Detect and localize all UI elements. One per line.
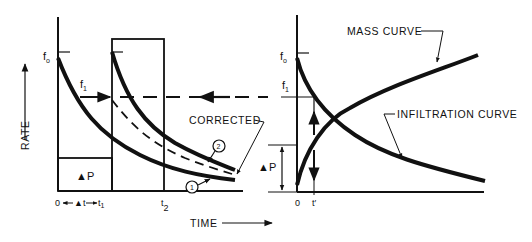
right-delta-p-label: ▲P (258, 161, 276, 173)
infiltration-curve-label: INFILTRATION CURVE (397, 108, 517, 120)
right-f0-label: fo (280, 50, 287, 64)
left-panel: RATE fo ▲P f1 CORRECTED 2 (19, 17, 272, 229)
left-delta-p-label: ▲P (76, 170, 94, 182)
right-f1-label: f1 (282, 79, 289, 93)
curve-2-marker-label: 2 (217, 143, 221, 150)
svg-text:t1: t1 (98, 198, 105, 209)
infiltration-diagram: RATE fo ▲P f1 CORRECTED 2 (0, 0, 532, 242)
rate-axis-label: RATE (19, 120, 31, 150)
mass-curve-label: MASS CURVE (347, 25, 422, 37)
t-prime-tick: t′ (312, 198, 317, 208)
svg-text:0: 0 (55, 198, 60, 208)
interval-rect (112, 39, 164, 191)
mass-curve-leader (421, 31, 443, 62)
right-origin-tick: 0 (295, 198, 300, 208)
time-axis-label: TIME (190, 217, 217, 229)
svg-text:▲t: ▲t (74, 198, 86, 208)
right-panel: fo f1 ▲P 0 t′ MASS CURVE INFILTRATION CU… (258, 15, 517, 208)
corrected-label: CORRECTED (189, 114, 261, 126)
curve-1-marker-label: 1 (190, 184, 194, 191)
left-f1-label: f1 (80, 78, 87, 92)
left-x-ticks: 0 ▲t t1 t2 (55, 198, 169, 213)
svg-text:t2: t2 (161, 198, 169, 213)
rate-axis-label-group: RATE (19, 64, 31, 150)
mass-curve (297, 55, 478, 185)
left-f0-label: fo (43, 50, 50, 64)
